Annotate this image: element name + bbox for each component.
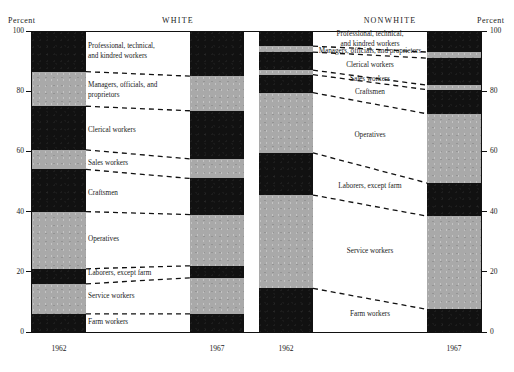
category-label-line: Sales workers bbox=[314, 75, 426, 85]
category-label-line: Laborers, except farm bbox=[314, 182, 426, 192]
connector-line bbox=[86, 150, 190, 159]
connector-line bbox=[313, 195, 427, 216]
x-axis-baseline bbox=[31, 332, 482, 333]
category-label-line: Clerical workers bbox=[314, 61, 426, 71]
bar-segment bbox=[32, 150, 86, 170]
category-label-line: Craftsmen bbox=[88, 189, 188, 199]
category-label-line: and kindred workers bbox=[88, 52, 188, 62]
bar-segment bbox=[427, 216, 481, 309]
bar-segment bbox=[259, 153, 313, 195]
tick-label-left-20: 20 bbox=[2, 267, 24, 276]
category-label-white: Clerical workers bbox=[88, 126, 188, 136]
tick-label-right-80: 80 bbox=[490, 86, 512, 95]
group-header-nonwhite: NONWHITE bbox=[330, 16, 450, 25]
bar-segment bbox=[32, 72, 86, 107]
tick-right-100 bbox=[481, 31, 487, 32]
category-label-line: Professional, technical, bbox=[88, 42, 188, 52]
bar-segment bbox=[32, 212, 86, 269]
bar-segment bbox=[427, 309, 481, 332]
axis-title-right: Percent bbox=[477, 16, 505, 25]
connector-line bbox=[86, 169, 190, 178]
bar-segment bbox=[190, 266, 244, 278]
tick-label-right-20: 20 bbox=[490, 267, 512, 276]
bar-segment bbox=[259, 93, 313, 153]
bar-nonwhite-1967[interactable] bbox=[427, 31, 481, 332]
category-label-line: Service workers bbox=[88, 292, 188, 302]
tick-label-left-40: 40 bbox=[2, 207, 24, 216]
category-label-line: Managers, officials, and proprietors bbox=[314, 47, 426, 57]
category-label-white: Professional, technical,and kindred work… bbox=[88, 42, 188, 61]
bar-segment bbox=[32, 314, 86, 332]
tick-right-60 bbox=[481, 151, 487, 152]
bar-segment bbox=[259, 52, 313, 70]
category-label-nonwhite: Operatives bbox=[314, 131, 426, 141]
category-label-line: Managers, officials, and bbox=[88, 81, 188, 91]
group-header-white: WHITE bbox=[118, 16, 238, 25]
bar-segment bbox=[32, 169, 86, 211]
category-label-white: Operatives bbox=[88, 235, 188, 245]
category-label-white: Service workers bbox=[88, 292, 188, 302]
bar-segment bbox=[190, 111, 244, 159]
bar-segment bbox=[427, 183, 481, 216]
tick-label-left-80: 80 bbox=[2, 86, 24, 95]
bar-segment bbox=[32, 269, 86, 284]
connector-line bbox=[86, 72, 190, 77]
tick-right-20 bbox=[481, 271, 487, 272]
y-axis-right bbox=[481, 31, 482, 333]
bar-segment bbox=[190, 314, 244, 332]
bar-segment bbox=[259, 288, 313, 332]
tick-label-right-60: 60 bbox=[490, 146, 512, 155]
connector-line bbox=[86, 106, 190, 111]
bar-nonwhite-1962[interactable] bbox=[259, 31, 313, 332]
category-label-white: Laborers, except farm bbox=[88, 269, 188, 279]
bar-segment bbox=[190, 278, 244, 314]
connector-line bbox=[313, 288, 427, 309]
bar-segment bbox=[32, 31, 86, 72]
bar-segment bbox=[427, 90, 481, 114]
bar-segment bbox=[427, 31, 481, 52]
bar-segment bbox=[32, 284, 86, 314]
category-label-line: Farm workers bbox=[88, 318, 188, 328]
tick-label-right-40: 40 bbox=[490, 207, 512, 216]
tick-right-40 bbox=[481, 211, 487, 212]
category-label-white: Craftsmen bbox=[88, 189, 188, 199]
bar-segment bbox=[190, 31, 244, 76]
category-label-line: Laborers, except farm bbox=[88, 269, 188, 279]
bar-segment bbox=[427, 58, 481, 85]
category-label-line: Farm workers bbox=[314, 310, 426, 320]
bar-segment bbox=[190, 159, 244, 179]
connector-line bbox=[86, 278, 190, 284]
category-label-line: Operatives bbox=[88, 235, 188, 245]
connector-line bbox=[313, 153, 427, 183]
tick-right-80 bbox=[481, 91, 487, 92]
category-label-line: Operatives bbox=[314, 131, 426, 141]
bar-segment bbox=[259, 75, 313, 93]
year-label-white-1967: 1967 bbox=[190, 344, 244, 353]
bar-white-1967[interactable] bbox=[190, 31, 244, 332]
tick-label-right-100: 100 bbox=[490, 26, 512, 35]
bar-segment bbox=[32, 106, 86, 150]
category-label-nonwhite: Laborers, except farm bbox=[314, 182, 426, 192]
category-label-nonwhite: Sales workers bbox=[314, 75, 426, 85]
category-label-line: Craftsmen bbox=[314, 88, 426, 98]
year-label-nonwhite-1962: 1962 bbox=[259, 344, 313, 353]
category-label-line: Clerical workers bbox=[88, 126, 188, 136]
category-label-nonwhite: Farm workers bbox=[314, 310, 426, 320]
category-label-nonwhite: Craftsmen bbox=[314, 88, 426, 98]
bar-segment bbox=[259, 31, 313, 46]
tick-right-0 bbox=[481, 332, 487, 333]
connector-line bbox=[86, 212, 190, 215]
category-label-nonwhite: Service workers bbox=[314, 247, 426, 257]
category-label-white: Managers, officials, andproprietors bbox=[88, 81, 188, 100]
bar-segment bbox=[190, 178, 244, 214]
tick-label-left-0: 0 bbox=[2, 327, 24, 336]
category-label-line: Sales workers bbox=[88, 159, 188, 169]
category-label-line: Professional, technical, bbox=[314, 30, 426, 40]
tick-label-left-60: 60 bbox=[2, 146, 24, 155]
year-label-white-1962: 1962 bbox=[32, 344, 86, 353]
bar-white-1962[interactable] bbox=[32, 31, 86, 332]
tick-label-left-100: 100 bbox=[2, 26, 24, 35]
category-label-white: Farm workers bbox=[88, 318, 188, 328]
occupational-distribution-chart: Percent WHITE NONWHITE Percent 100100808… bbox=[0, 0, 514, 372]
category-label-line: Service workers bbox=[314, 247, 426, 257]
